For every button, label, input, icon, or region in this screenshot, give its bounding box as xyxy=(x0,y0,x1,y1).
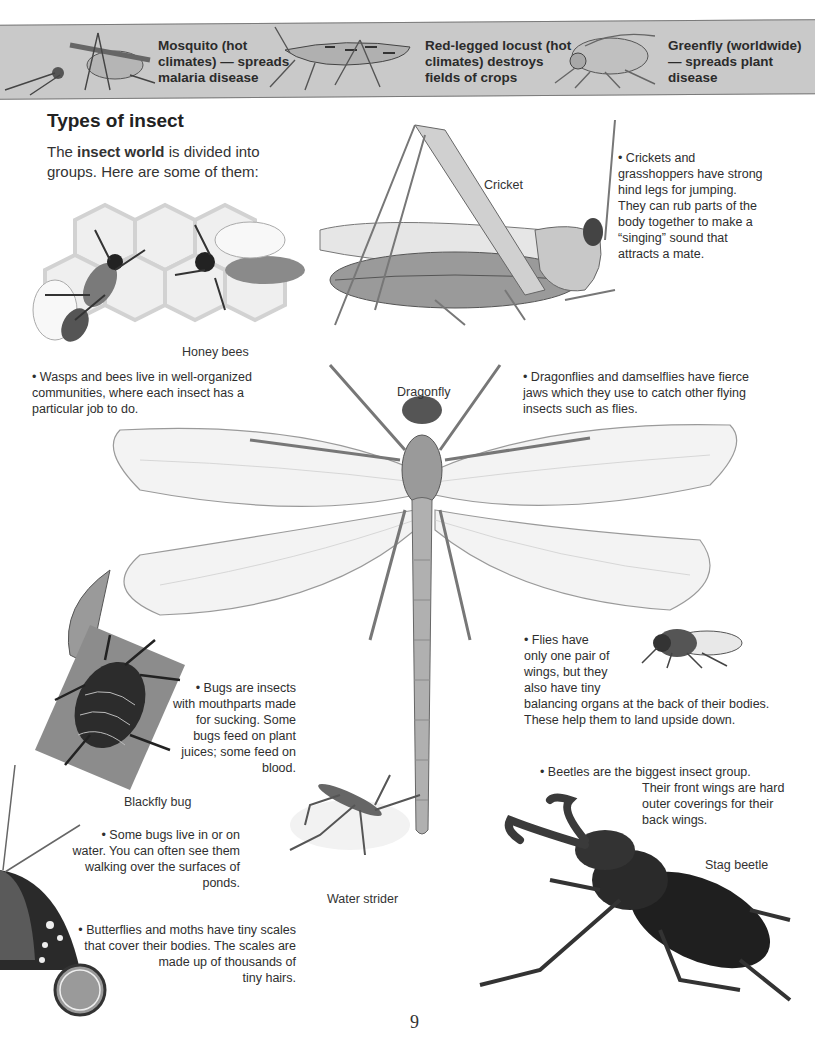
fact-line: made up of thousands of xyxy=(70,954,296,970)
fact-line: • Flies have xyxy=(524,632,784,648)
bugs-fact: • Bugs are insects with mouthparts made … xyxy=(110,680,296,776)
butterfly-illustration xyxy=(0,760,110,1030)
intro-bold-term: insect world xyxy=(77,143,165,160)
fact-line: jaws which they use to catch other flyin… xyxy=(523,385,793,401)
water-strider-caption: Water strider xyxy=(327,892,398,906)
intro-paragraph: The insect world is divided into groups.… xyxy=(47,142,287,182)
water-strider-illustration xyxy=(280,765,420,865)
honey-bees-caption: Honey bees xyxy=(182,345,249,359)
fact-line: • Crickets and xyxy=(618,150,808,166)
honey-bees-illustration xyxy=(15,200,305,350)
fact-line: attracts a mate. xyxy=(618,246,808,262)
strip-line: disease xyxy=(668,70,802,86)
fact-line: tiny hairs. xyxy=(70,970,296,986)
fact-line: blood. xyxy=(110,760,296,776)
strip-line: — spreads plant xyxy=(668,54,802,70)
locust-illustration xyxy=(265,25,415,95)
cricket-caption: Cricket xyxy=(484,178,523,192)
fact-line: These help them to land upside down. xyxy=(524,712,784,728)
fact-line: only one pair of xyxy=(524,648,784,664)
fact-line: • Butterflies and moths have tiny scales xyxy=(70,922,296,938)
fact-line: bugs feed on plant xyxy=(110,728,296,744)
fact-line: They can rub parts of the xyxy=(618,198,808,214)
fact-line: insects such as flies. xyxy=(523,401,793,417)
stag-beetle-caption: Stag beetle xyxy=(705,858,768,872)
butterflies-fact: • Butterflies and moths have tiny scales… xyxy=(70,922,296,986)
fact-line: body together to make a xyxy=(618,214,808,230)
fact-line: hind legs for jumping. xyxy=(618,182,808,198)
page-title: Types of insect xyxy=(47,110,184,132)
fact-line: • Beetles are the biggest insect group. xyxy=(540,764,810,780)
fact-line: • Bugs are insects xyxy=(110,680,296,696)
fact-line: also have tiny xyxy=(524,680,784,696)
intro-text: The xyxy=(47,143,77,160)
mosquito-illustration xyxy=(0,25,160,95)
fact-line: juices; some feed on xyxy=(110,744,296,760)
greenfly-illustration xyxy=(545,28,660,90)
cricket-illustration xyxy=(315,120,615,335)
dragonflies-fact: • Dragonflies and damselflies have fierc… xyxy=(523,369,793,417)
flies-fact: • Flies have only one pair of wings, but… xyxy=(524,632,784,728)
fact-line: “singing” sound that xyxy=(618,230,808,246)
fact-line: wings, but they xyxy=(524,664,784,680)
fact-line: balancing organs at the back of their bo… xyxy=(524,696,784,712)
fact-line: grasshoppers have strong xyxy=(618,166,808,182)
strip-line: Greenfly (worldwide) xyxy=(668,38,802,54)
dragonfly-caption: Dragonfly xyxy=(397,385,451,399)
blackfly-bug-caption: Blackfly bug xyxy=(124,795,191,809)
crickets-fact: • Crickets and grasshoppers have strong … xyxy=(618,150,808,262)
fact-line: that cover their bodies. The scales are xyxy=(70,938,296,954)
fact-line: with mouthparts made xyxy=(110,696,296,712)
greenfly-text: Greenfly (worldwide) — spreads plant dis… xyxy=(668,38,802,86)
stag-beetle-illustration xyxy=(480,790,815,1015)
fact-line: for sucking. Some xyxy=(110,712,296,728)
fact-line: • Dragonflies and damselflies have fierc… xyxy=(523,369,793,385)
page-number: 9 xyxy=(410,1012,419,1033)
